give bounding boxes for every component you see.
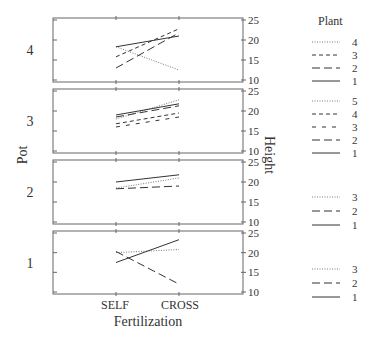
- pot-label: 2: [27, 185, 34, 200]
- x-tick-self: SELF: [101, 298, 129, 312]
- legend-label: 2: [352, 277, 358, 289]
- legend-label: 2: [352, 62, 358, 74]
- legend: 432154321321321: [312, 36, 358, 303]
- series-line-plant-1: [116, 240, 179, 263]
- panel-pot-4: 101520254: [27, 14, 260, 86]
- y-tick-label: 15: [248, 54, 260, 66]
- legend-label: 3: [352, 191, 358, 203]
- y-tick-label: 15: [248, 125, 260, 137]
- pot-label: 3: [27, 114, 34, 129]
- y-tick-label: 15: [248, 196, 260, 208]
- legend-label: 1: [352, 75, 358, 87]
- legend-label: 4: [352, 36, 358, 48]
- legend-label: 1: [352, 147, 358, 159]
- panel-pot-2: 101520252: [27, 156, 260, 228]
- y-tick-label: 25: [248, 14, 260, 26]
- panel-frame: [53, 231, 243, 294]
- panel-pot-3: 101520253: [27, 85, 260, 157]
- x-tick-cross: CROSS: [161, 298, 199, 312]
- y-tick-label: 20: [248, 247, 260, 259]
- y-tick-label: 20: [248, 34, 260, 46]
- legend-label: 3: [352, 263, 358, 275]
- y-tick-label: 20: [248, 105, 260, 117]
- y-tick-label: 25: [248, 156, 260, 168]
- series-line-plant-2: [116, 106, 179, 117]
- series-line-plant-2: [116, 186, 179, 189]
- series-line-plant-1: [116, 175, 179, 182]
- series-line-plant-1: [116, 36, 179, 47]
- trellis-line-chart: 101520254101520253101520252101520251 432…: [0, 0, 376, 338]
- legend-label: 1: [352, 219, 358, 231]
- y-tick-label: 10: [248, 286, 260, 298]
- x-axis-label: Fertilization: [114, 314, 182, 329]
- y-tick-label: 25: [248, 227, 260, 239]
- pot-label: 4: [27, 43, 34, 58]
- panel-frame: [53, 89, 243, 153]
- legend-label: 2: [352, 134, 358, 146]
- pot-label: 1: [27, 256, 34, 271]
- series-line-plant-1: [116, 104, 179, 115]
- y-axis-label-pot: Pot: [15, 146, 30, 165]
- legend-label: 5: [352, 95, 358, 107]
- legend-label: 2: [352, 205, 358, 217]
- legend-label: 1: [352, 291, 358, 303]
- legend-label: 3: [352, 49, 358, 61]
- series-line-plant-2: [116, 251, 179, 284]
- y-tick-label: 20: [248, 176, 260, 188]
- series-line-plant-3: [116, 29, 179, 57]
- y-tick-label: 15: [248, 266, 260, 278]
- legend-label: 4: [352, 108, 358, 120]
- y-tick-label: 25: [248, 85, 260, 97]
- y-axis-label-height: Height: [262, 136, 277, 174]
- panel-pot-1: 101520251: [27, 227, 260, 298]
- legend-label: 3: [352, 121, 358, 133]
- panel-frame: [53, 160, 243, 224]
- panels: 101520254101520253101520252101520251: [27, 14, 260, 298]
- legend-title: Plant: [318, 14, 343, 28]
